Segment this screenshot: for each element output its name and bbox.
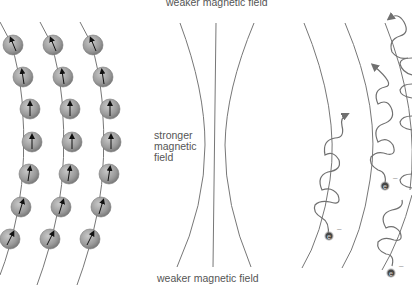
spin-particle — [99, 164, 119, 184]
curved-field-line-2 — [342, 23, 373, 268]
spin-particle — [0, 229, 20, 249]
electron-spiral-3 — [390, 16, 408, 59]
spin-particle — [91, 197, 111, 217]
spin-particle — [100, 99, 120, 119]
spin-particle — [22, 132, 42, 152]
svg-text:–: – — [337, 224, 342, 233]
spin-particle — [3, 35, 23, 55]
spin-particle — [83, 35, 103, 55]
spin-particle — [13, 67, 33, 87]
curved-field-line-3 — [385, 23, 412, 190]
svg-text:–: – — [393, 173, 398, 182]
bottom-field-label: weaker magnetic field — [157, 273, 259, 284]
spin-particle — [53, 67, 73, 87]
electron-1: e – — [324, 224, 342, 241]
spin-particle — [59, 164, 79, 184]
electron-spirals-panel: e – e – e – — [302, 16, 412, 278]
spin-particle — [51, 197, 71, 217]
electron-3: e – — [386, 261, 404, 278]
spin-particle — [80, 229, 100, 249]
spin-chain-2 — [37, 22, 82, 285]
spin-chains-panel — [0, 22, 121, 285]
electron-2: e – — [380, 173, 398, 191]
curved-field-line-4 — [382, 195, 412, 270]
spin-particle — [20, 99, 40, 119]
spin-chain-1 — [0, 22, 42, 275]
field-line-right — [225, 23, 254, 267]
svg-text:e: e — [389, 270, 393, 277]
svg-text:e: e — [327, 233, 331, 240]
middle-field-label: stronger magnetic field — [154, 130, 224, 163]
electron-spiral-2 — [370, 66, 394, 184]
spin-particle — [93, 67, 113, 87]
spin-particle — [40, 229, 60, 249]
middle-label-line-3: field — [154, 152, 224, 163]
spin-particle — [62, 132, 82, 152]
svg-text:–: – — [399, 261, 404, 270]
spin-particle — [19, 164, 39, 184]
spin-particle — [60, 99, 80, 119]
spin-particle — [101, 132, 121, 152]
svg-text:e: e — [383, 183, 387, 190]
top-field-label: weaker magnetic field — [166, 0, 268, 8]
spin-particle — [43, 35, 63, 55]
spin-chain-3 — [77, 22, 121, 285]
spin-particle — [11, 197, 31, 217]
